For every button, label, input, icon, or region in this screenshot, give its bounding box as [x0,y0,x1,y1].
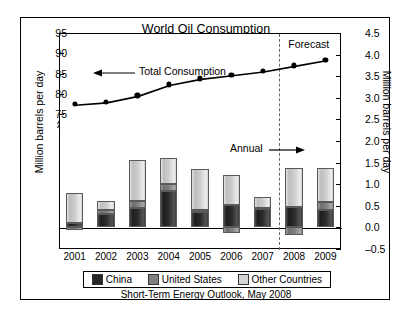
y-tick-right: 1.5 [365,157,393,169]
tick-mark [336,206,341,207]
tick-mark [336,98,341,99]
legend-label: Other Countries [252,274,323,285]
bar-segment-china [317,210,335,227]
arrow-left-icon [93,68,135,78]
y-tick-right: 1.0 [365,178,393,190]
tick-mark [59,33,64,34]
legend-item-other-countries[interactable]: Other Countries [238,274,323,285]
y-tick-right: 0.0 [365,221,393,233]
y-tick-right: 2.5 [365,113,393,125]
legend-item-united-states[interactable]: United States [148,274,222,285]
annotation-total-consumption: Total Consumption [139,65,226,77]
bar-segment-united-states [254,208,272,210]
bar-segment-united-states [129,201,147,207]
bar-segment-china [254,209,272,228]
bar-segment-other-countries [223,175,241,205]
bar-segment-united-states [223,227,241,233]
bar-segment-other-countries [66,193,84,223]
tick-mark [336,227,341,228]
bar-segment-united-states [97,210,115,214]
tick-mark [336,141,341,142]
bar-segment-united-states [317,202,335,210]
bar-segment-other-countries [254,197,272,207]
chart-legend: ChinaUnited StatesOther Countries [83,271,331,288]
bar-segment-china [160,191,178,228]
bar-2002 [97,33,115,249]
bar-segment-united-states [66,227,84,229]
annotation-forecast: Forecast [288,38,329,50]
annotation-annual: Annual [230,142,263,154]
y-tick-right: 3.5 [365,70,393,82]
tick-mark [336,249,341,250]
tick-mark [59,94,64,95]
legend-swatch [238,274,249,285]
bar-segment-china [191,212,209,227]
tick-mark [336,33,341,34]
bar-segment-china [97,214,115,227]
y-tick-right: 3.0 [365,92,393,104]
tick-mark [336,163,341,164]
legend-label: China [106,274,132,285]
y-tick-right: 4.0 [365,49,393,61]
chart-outer-frame: World Oil Consumption Million barrels pe… [20,17,390,300]
tick-mark [59,74,64,75]
bar-2009 [317,33,335,249]
bar-segment-united-states [160,184,178,190]
tick-mark [336,76,341,77]
bar-segment-other-countries [317,168,335,203]
legend-label: United States [162,274,222,285]
legend-swatch [148,274,159,285]
bar-segment-china [285,207,303,228]
legend-item-china[interactable]: China [92,274,132,285]
bar-segment-china [129,208,147,227]
bar-segment-other-countries [285,168,303,207]
bar-segment-other-countries [191,169,209,210]
bar-segment-other-countries [129,160,147,201]
bar-segment-other-countries [160,158,178,184]
y-tick-right: –0.5 [365,243,393,255]
tick-mark [59,53,64,54]
y-tick-right: 2.0 [365,135,393,147]
legend-swatch [92,274,103,285]
tick-mark [336,119,341,120]
tick-mark [336,55,341,56]
bar-2007 [254,33,272,249]
bar-segment-united-states [285,227,303,235]
bar-segment-china [223,205,241,227]
tick-mark [59,114,64,115]
tick-mark [336,184,341,185]
bar-segment-other-countries [97,201,115,211]
bar-2001 [66,33,84,249]
y-tick-right: 0.5 [365,200,393,212]
x-tick-2009: 2009 [305,251,345,262]
bar-segment-united-states [191,210,209,212]
chart-caption: Short-Term Energy Outlook, May 2008 [21,289,391,300]
y-tick-right: 4.5 [365,27,393,39]
arrow-right-icon [269,145,305,155]
